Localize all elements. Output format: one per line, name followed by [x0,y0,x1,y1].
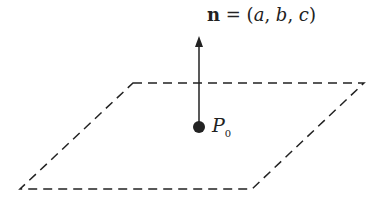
point-p0 [193,121,205,133]
separator: , [264,4,275,25]
close-paren: ) [309,4,316,25]
normal-vector-label: n = (a, b, c) [207,4,316,25]
component-a: a [254,4,265,25]
plane-diagram [0,0,386,201]
separator: , [287,4,298,25]
vector-n: n [207,4,220,25]
component-c: c [299,4,309,25]
arrowhead-icon [195,36,203,47]
equals-text: = ( [220,4,254,25]
point-subscript: 0 [225,128,231,139]
point-label: P0 [212,114,231,139]
dashed-plane [20,83,364,189]
component-b: b [276,4,288,25]
point-name: P [212,114,225,136]
